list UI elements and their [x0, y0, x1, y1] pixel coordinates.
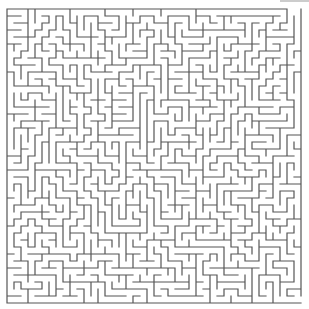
- maze-walls: [0, 0, 309, 309]
- maze-board: [0, 0, 309, 309]
- maze-wall-path: [7, 9, 301, 303]
